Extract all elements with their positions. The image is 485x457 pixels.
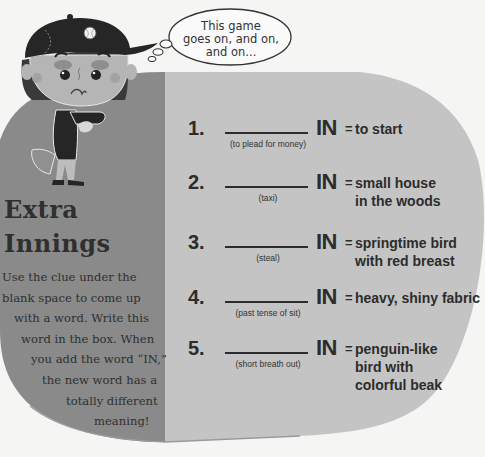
instruction-line: the new word has a [0,370,160,391]
instructions: Use the clue under the blank space to co… [0,267,160,432]
meaning-line: colorful beak [355,376,442,394]
instruction-line: with a word. Write this [0,308,160,329]
answer-blank[interactable] [225,352,308,354]
thought-bubble: This game goes on, and on, and on... [172,13,290,65]
meaning-line: in the woods [355,192,441,210]
in-suffix: IN [316,337,337,359]
answer-blank[interactable] [225,132,308,134]
page-title: Extra Innings [4,193,110,261]
in-suffix: IN [316,117,337,139]
answer-blank[interactable] [225,301,308,303]
answer-blank[interactable] [225,186,308,188]
meaning-line: bird with [355,358,442,376]
in-suffix: IN [316,231,337,253]
item-number: 5. [188,337,205,359]
item-meaning: heavy, shiny fabric [355,289,480,307]
instruction-line: blank space to come up [0,288,160,309]
item-clue: (to plead for money) [208,139,328,150]
meaning-line: to start [355,120,402,138]
thought-line: and on... [183,46,279,59]
in-suffix: IN [316,171,337,193]
item-meaning: penguin-like bird with colorful beak [355,340,442,394]
worksheet-page: This game goes on, and on, and on... Ext… [0,0,485,457]
item-clue: (short breath out) [208,359,328,370]
title-line-1: Extra [4,193,110,227]
instruction-line: totally different [0,391,160,412]
answer-blank[interactable] [225,246,308,248]
item-meaning: to start [355,120,402,138]
instruction-line: you add the word “IN,” [0,349,160,370]
equals-sign: = [345,120,353,138]
item-clue: (past tense of sit) [208,308,328,319]
meaning-line: with red breast [355,252,457,270]
meaning-line: small house [355,174,441,192]
equals-sign: = [345,340,353,358]
instruction-line: Use the clue under the [0,267,160,288]
thought-line: This game [183,20,279,33]
instruction-line: word in the box. When [0,329,160,350]
item-number: 4. [188,286,205,308]
item-number: 2. [188,171,205,193]
equals-sign: = [345,289,353,307]
equals-sign: = [345,174,353,192]
title-line-2: Innings [4,227,110,261]
item-meaning: small house in the woods [355,174,441,210]
item-clue: (taxi) [208,193,328,204]
in-suffix: IN [316,286,337,308]
item-meaning: springtime bird with red breast [355,234,457,270]
item-clue: (steal) [208,253,328,264]
meaning-line: springtime bird [355,234,457,252]
item-number: 1. [188,117,205,139]
thought-line: goes on, and on, [183,33,279,46]
meaning-line: penguin-like [355,340,442,358]
instruction-line: meaning! [0,411,160,432]
item-number: 3. [188,231,205,253]
equals-sign: = [345,234,353,252]
meaning-line: heavy, shiny fabric [355,289,480,307]
